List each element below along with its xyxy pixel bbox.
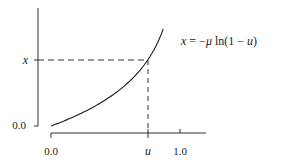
exponential-inverse-cdf-diagram: 0.0 x 0.0 u 1.0 x = −μ ln(1 − u) xyxy=(0,0,286,164)
x-label-zero: 0.0 xyxy=(44,145,58,157)
y-label-zero: 0.0 xyxy=(12,119,26,131)
equation-label: x = −μ ln(1 − u) xyxy=(180,34,257,48)
curve-line xyxy=(51,29,163,126)
y-label-x: x xyxy=(22,53,29,67)
x-label-u: u xyxy=(145,144,151,158)
x-label-one: 1.0 xyxy=(173,145,187,157)
